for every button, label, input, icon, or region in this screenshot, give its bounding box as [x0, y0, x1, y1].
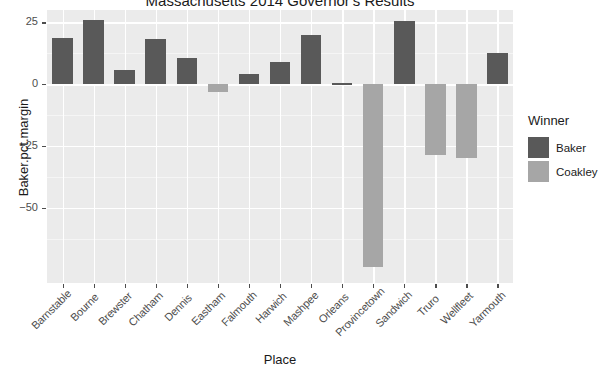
x-axis-title: Place — [47, 352, 513, 367]
chart-title: Massachusetts 2014 Governor's Results — [47, 0, 513, 9]
x-tick-mark — [497, 284, 498, 288]
bar-barnstable[interactable] — [52, 38, 73, 84]
x-tick-label-mashpee: Mashpee — [281, 289, 320, 328]
bar-eastham[interactable] — [208, 84, 229, 91]
x-tick-mark — [466, 284, 467, 288]
bar-falmouth[interactable] — [239, 74, 260, 84]
plot-panel — [47, 10, 513, 283]
chart-root: Massachusetts 2014 Governor's Results 25… — [0, 0, 609, 374]
gridline-vertical — [125, 10, 126, 283]
legend-swatch-baker — [528, 137, 549, 158]
gridline-vertical — [342, 10, 343, 283]
x-tick-mark — [218, 284, 219, 288]
x-tick-mark — [125, 284, 126, 288]
x-tick-mark — [156, 284, 157, 288]
bar-sandwich[interactable] — [394, 21, 415, 84]
y-axis-title: Baker.pct.margin — [16, 63, 31, 233]
gridline-vertical — [497, 10, 498, 283]
x-tick-mark — [187, 284, 188, 288]
x-tick-mark — [311, 284, 312, 288]
bar-bourne[interactable] — [83, 20, 104, 84]
gridline-vertical — [187, 10, 188, 283]
x-tick-label-barnstable: Barnstable — [29, 288, 73, 332]
legend-label-baker: Baker — [556, 142, 586, 154]
bar-wellfleet[interactable] — [456, 84, 477, 158]
legend-title: Winner — [528, 113, 598, 128]
legend-item-coakley[interactable]: Coakley — [528, 161, 598, 182]
x-tick-mark — [342, 284, 343, 288]
bar-chatham[interactable] — [145, 39, 166, 84]
y-tick-mark — [42, 84, 46, 85]
x-tick-mark — [94, 284, 95, 288]
x-tick-label-yarmouth: Yarmouth — [467, 289, 508, 330]
legend-item-baker[interactable]: Baker — [528, 137, 598, 158]
bar-mashpee[interactable] — [301, 35, 322, 84]
bar-harwich[interactable] — [270, 62, 291, 84]
gridline-vertical — [280, 10, 281, 283]
gridline-vertical — [249, 10, 250, 283]
bar-provincetown[interactable] — [363, 84, 384, 267]
legend-swatch-coakley — [528, 161, 549, 182]
bar-dennis[interactable] — [177, 58, 198, 84]
bar-yarmouth[interactable] — [487, 53, 508, 84]
legend-label-coakley: Coakley — [556, 166, 598, 178]
x-tick-mark — [435, 284, 436, 288]
y-tick-label: 25 — [4, 15, 38, 27]
x-tick-label-truro: Truro — [415, 293, 441, 319]
y-tick-mark — [42, 22, 46, 23]
y-tick-mark — [42, 208, 46, 209]
bar-brewster[interactable] — [114, 70, 135, 84]
x-tick-mark — [280, 284, 281, 288]
bar-orleans[interactable] — [332, 83, 353, 85]
bar-truro[interactable] — [425, 84, 446, 155]
y-tick-mark — [42, 146, 46, 147]
gridline-vertical — [218, 10, 219, 283]
legend: Winner BakerCoakley — [528, 113, 598, 185]
